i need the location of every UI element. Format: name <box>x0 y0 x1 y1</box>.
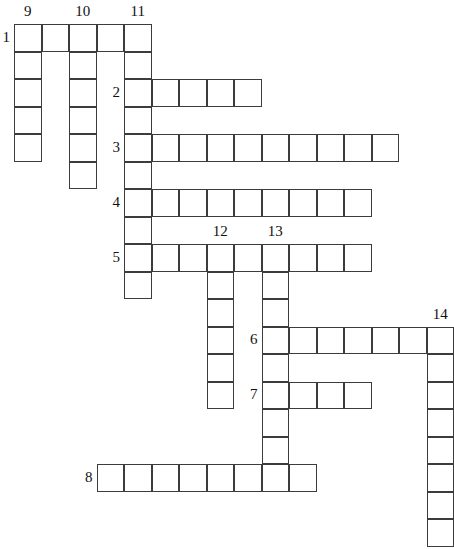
crossword-cell-r6-c9[interactable] <box>262 189 290 217</box>
crossword-cell-r14-c9[interactable] <box>262 409 290 437</box>
crossword-cell-r16-c5[interactable] <box>152 464 180 492</box>
crossword-cell-r2-c0[interactable] <box>14 79 42 107</box>
crossword-cell-r8-c8[interactable] <box>234 244 262 272</box>
crossword-cell-r10-c7[interactable] <box>207 299 235 327</box>
crossword-cell-r11-c15[interactable] <box>427 327 454 355</box>
crossword-cell-r2-c8[interactable] <box>234 79 262 107</box>
crossword-cell-r4-c2[interactable] <box>69 134 97 162</box>
crossword-cell-r1-c2[interactable] <box>69 52 97 80</box>
crossword-cell-r11-c11[interactable] <box>317 327 345 355</box>
crossword-cell-r13-c15[interactable] <box>427 382 454 410</box>
crossword-cell-r6-c11[interactable] <box>317 189 345 217</box>
crossword-cell-r2-c6[interactable] <box>179 79 207 107</box>
crossword-cell-r16-c4[interactable] <box>124 464 152 492</box>
down-clue-number-13: 13 <box>262 224 290 239</box>
crossword-cell-r12-c9[interactable] <box>262 354 290 382</box>
crossword-cell-r8-c5[interactable] <box>152 244 180 272</box>
across-clue-number-2: 2 <box>100 85 120 100</box>
crossword-cell-r13-c9[interactable] <box>262 382 290 410</box>
crossword-cell-r4-c13[interactable] <box>372 134 400 162</box>
crossword-cell-r7-c4[interactable] <box>124 217 152 245</box>
crossword-cell-r1-c0[interactable] <box>14 52 42 80</box>
crossword-cell-r8-c7[interactable] <box>207 244 235 272</box>
crossword-cell-r6-c10[interactable] <box>289 189 317 217</box>
crossword-cell-r16-c3[interactable] <box>97 464 125 492</box>
crossword-cell-r4-c6[interactable] <box>179 134 207 162</box>
crossword-cell-r17-c15[interactable] <box>427 492 454 520</box>
crossword-cell-r4-c8[interactable] <box>234 134 262 162</box>
crossword-cell-r15-c9[interactable] <box>262 437 290 465</box>
crossword-cell-r12-c15[interactable] <box>427 354 454 382</box>
down-clue-number-14: 14 <box>427 307 454 322</box>
crossword-cell-r6-c4[interactable] <box>124 189 152 217</box>
crossword-cell-r11-c13[interactable] <box>372 327 400 355</box>
crossword-cell-r8-c6[interactable] <box>179 244 207 272</box>
crossword-cell-r4-c12[interactable] <box>344 134 372 162</box>
down-clue-number-11: 11 <box>124 4 152 19</box>
crossword-cell-r16-c6[interactable] <box>179 464 207 492</box>
across-clue-number-6: 6 <box>238 332 258 347</box>
crossword-cell-r8-c12[interactable] <box>344 244 372 272</box>
crossword-cell-r16-c15[interactable] <box>427 464 454 492</box>
crossword-cell-r4-c9[interactable] <box>262 134 290 162</box>
crossword-cell-r3-c0[interactable] <box>14 107 42 135</box>
crossword-cell-r9-c9[interactable] <box>262 272 290 300</box>
crossword-cell-r6-c5[interactable] <box>152 189 180 217</box>
crossword-cell-r15-c15[interactable] <box>427 437 454 465</box>
crossword-cell-r5-c2[interactable] <box>69 162 97 190</box>
crossword-cell-r4-c10[interactable] <box>289 134 317 162</box>
crossword-cell-r16-c7[interactable] <box>207 464 235 492</box>
across-clue-number-1: 1 <box>0 30 10 45</box>
crossword-cell-r4-c7[interactable] <box>207 134 235 162</box>
crossword-cell-r18-c15[interactable] <box>427 519 454 547</box>
crossword-cell-r4-c5[interactable] <box>152 134 180 162</box>
crossword-cell-r8-c4[interactable] <box>124 244 152 272</box>
crossword-cell-r6-c8[interactable] <box>234 189 262 217</box>
crossword-cell-r2-c5[interactable] <box>152 79 180 107</box>
crossword-cell-r2-c7[interactable] <box>207 79 235 107</box>
crossword-cell-r0-c1[interactable] <box>42 24 70 52</box>
crossword-cell-r13-c10[interactable] <box>289 382 317 410</box>
crossword-cell-r13-c12[interactable] <box>344 382 372 410</box>
crossword-cell-r3-c2[interactable] <box>69 107 97 135</box>
crossword-cell-r13-c11[interactable] <box>317 382 345 410</box>
crossword-cell-r16-c8[interactable] <box>234 464 262 492</box>
crossword-cell-r4-c0[interactable] <box>14 134 42 162</box>
crossword-cell-r0-c2[interactable] <box>69 24 97 52</box>
across-clue-number-4: 4 <box>100 195 120 210</box>
crossword-cell-r8-c9[interactable] <box>262 244 290 272</box>
crossword-cell-r2-c2[interactable] <box>69 79 97 107</box>
down-clue-number-12: 12 <box>207 224 235 239</box>
crossword-cell-r4-c11[interactable] <box>317 134 345 162</box>
crossword-cell-r9-c7[interactable] <box>207 272 235 300</box>
crossword-cell-r8-c10[interactable] <box>289 244 317 272</box>
crossword-cell-r0-c0[interactable] <box>14 24 42 52</box>
crossword-cell-r16-c10[interactable] <box>289 464 317 492</box>
across-clue-number-5: 5 <box>100 250 120 265</box>
crossword-cell-r0-c4[interactable] <box>124 24 152 52</box>
down-clue-number-9: 9 <box>14 4 42 19</box>
crossword-cell-r10-c9[interactable] <box>262 299 290 327</box>
crossword-cell-r5-c4[interactable] <box>124 162 152 190</box>
crossword-cell-r11-c10[interactable] <box>289 327 317 355</box>
crossword-cell-r6-c12[interactable] <box>344 189 372 217</box>
crossword-cell-r9-c4[interactable] <box>124 272 152 300</box>
across-clue-number-7: 7 <box>238 387 258 402</box>
crossword-cell-r11-c12[interactable] <box>344 327 372 355</box>
crossword-cell-r6-c7[interactable] <box>207 189 235 217</box>
crossword-cell-r12-c7[interactable] <box>207 354 235 382</box>
crossword-cell-r11-c9[interactable] <box>262 327 290 355</box>
crossword-cell-r16-c9[interactable] <box>262 464 290 492</box>
crossword-cell-r0-c3[interactable] <box>97 24 125 52</box>
crossword-cell-r3-c4[interactable] <box>124 107 152 135</box>
crossword-cell-r2-c4[interactable] <box>124 79 152 107</box>
crossword-cell-r14-c15[interactable] <box>427 409 454 437</box>
crossword-cell-r11-c14[interactable] <box>399 327 427 355</box>
crossword-cell-r11-c7[interactable] <box>207 327 235 355</box>
crossword-cell-r13-c7[interactable] <box>207 382 235 410</box>
crossword-cell-r1-c4[interactable] <box>124 52 152 80</box>
crossword-cell-r8-c11[interactable] <box>317 244 345 272</box>
crossword-cell-r6-c6[interactable] <box>179 189 207 217</box>
crossword-cell-r4-c4[interactable] <box>124 134 152 162</box>
